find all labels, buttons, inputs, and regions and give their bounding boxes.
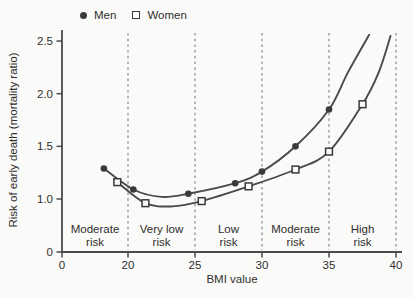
chart-legend: Men Women bbox=[80, 9, 187, 21]
legend-label-men: Men bbox=[94, 9, 116, 21]
men-data-point bbox=[292, 143, 299, 150]
women-data-point bbox=[198, 198, 205, 205]
bmi-mortality-risk-figure: ModerateriskVery lowriskLowriskModerater… bbox=[0, 0, 413, 298]
zone-label-line2: risk bbox=[153, 236, 171, 248]
zone-label-line1: Low bbox=[218, 223, 240, 235]
open-square-icon bbox=[132, 11, 140, 19]
zone-label-line2: risk bbox=[354, 236, 372, 248]
y-tick-label: 0 bbox=[47, 246, 53, 258]
y-axis-title: Risk of early death (mortality ratio) bbox=[7, 52, 19, 227]
women-data-point bbox=[245, 183, 252, 190]
y-tick-label: 2.0 bbox=[37, 88, 53, 100]
x-tick-label: 25 bbox=[189, 259, 202, 271]
y-tick-label: 2.5 bbox=[37, 35, 53, 47]
y-tick-label: 1.5 bbox=[37, 140, 53, 152]
x-tick-label: 40 bbox=[390, 259, 403, 271]
men-data-point bbox=[326, 106, 333, 113]
x-tick-label: 20 bbox=[122, 259, 135, 271]
zone-label-line1: Moderate bbox=[71, 223, 120, 235]
zone-label-line2: risk bbox=[86, 236, 104, 248]
zone-label-line1: Very low bbox=[140, 223, 184, 235]
men-curve bbox=[104, 35, 369, 197]
zone-label-line2: risk bbox=[220, 236, 238, 248]
women-data-point bbox=[114, 179, 121, 186]
women-data-point bbox=[326, 148, 333, 155]
x-axis-title: BMI value bbox=[62, 273, 402, 285]
x-tick-label: 35 bbox=[323, 259, 336, 271]
legend-label-women: Women bbox=[147, 9, 186, 21]
men-data-point bbox=[232, 180, 239, 187]
x-tick-label: 30 bbox=[256, 259, 269, 271]
men-data-point bbox=[101, 165, 108, 172]
zone-label-line1: High bbox=[351, 223, 375, 235]
zone-label-line1: Moderate bbox=[271, 223, 320, 235]
filled-circle-icon bbox=[80, 12, 87, 19]
women-data-point bbox=[142, 200, 149, 207]
women-curve bbox=[117, 36, 390, 207]
men-data-point bbox=[130, 186, 137, 193]
x-tick-label: 0 bbox=[59, 259, 65, 271]
legend-item-women: Women bbox=[132, 9, 186, 21]
men-data-point bbox=[259, 168, 266, 175]
women-data-point bbox=[292, 166, 299, 173]
legend-item-men: Men bbox=[80, 9, 116, 21]
zone-label-line2: risk bbox=[287, 236, 305, 248]
women-data-point bbox=[359, 101, 366, 108]
men-data-point bbox=[185, 190, 192, 197]
y-tick-label: 1.0 bbox=[37, 193, 53, 205]
chart-canvas: ModerateriskVery lowriskLowriskModerater… bbox=[0, 0, 413, 298]
